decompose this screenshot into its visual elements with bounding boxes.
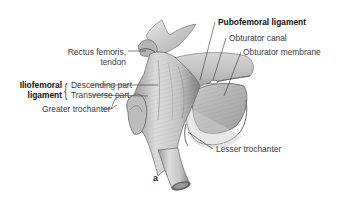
label-iliofemoral-ligament: Iliofemoral ligament (8, 80, 62, 100)
label-pubofemoral-ligament: Pubofemoral ligament (218, 17, 306, 27)
obturator-canal (210, 80, 218, 83)
label-rectus-femoris-line1: Rectus femoris, (68, 47, 126, 57)
label-greater-trochanter: Greater trochanter (42, 104, 110, 114)
label-obturator-canal: Obturator canal (229, 33, 287, 43)
panel-label: a (153, 173, 158, 183)
label-lesser-trochanter: Lesser trochanter (216, 144, 281, 154)
label-iliofemoral-line1: Iliofemoral (20, 80, 62, 90)
label-descending-part: Descending part (71, 80, 132, 90)
label-iliofemoral-line2: ligament (28, 90, 62, 100)
label-rectus-femoris-line2: tendon (100, 57, 126, 67)
hip-ligament-diagram: Rectus femoris, tendon Iliofemoral ligam… (0, 0, 341, 198)
label-transverse-part: Transverse part (71, 90, 129, 100)
label-rectus-femoris: Rectus femoris, tendon (60, 47, 126, 67)
brace-icon: { (64, 80, 67, 99)
label-obturator-membrane: Obturator membrane (243, 47, 321, 57)
